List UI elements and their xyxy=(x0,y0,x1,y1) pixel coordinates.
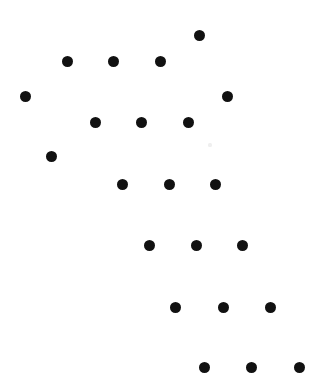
scatter-dot xyxy=(237,240,248,251)
scatter-dot xyxy=(194,30,205,41)
faint-speck xyxy=(208,143,211,146)
scatter-dot xyxy=(170,302,181,313)
scatter-dot xyxy=(164,179,175,190)
scatter-dot xyxy=(155,56,166,67)
dot-pattern-canvas xyxy=(0,0,328,382)
scatter-dot xyxy=(210,179,221,190)
scatter-dot xyxy=(218,302,229,313)
scatter-dot xyxy=(265,302,276,313)
scatter-dot xyxy=(246,362,257,373)
scatter-dot xyxy=(20,91,31,102)
scatter-dot xyxy=(294,362,305,373)
scatter-dot xyxy=(144,240,155,251)
scatter-dot xyxy=(117,179,128,190)
scatter-dot xyxy=(191,240,202,251)
scatter-dot xyxy=(136,117,147,128)
scatter-dot xyxy=(199,362,210,373)
scatter-dot xyxy=(108,56,119,67)
scatter-dot xyxy=(62,56,73,67)
scatter-dot xyxy=(222,91,233,102)
scatter-dot xyxy=(183,117,194,128)
scatter-dot xyxy=(46,151,57,162)
scatter-dot xyxy=(90,117,101,128)
